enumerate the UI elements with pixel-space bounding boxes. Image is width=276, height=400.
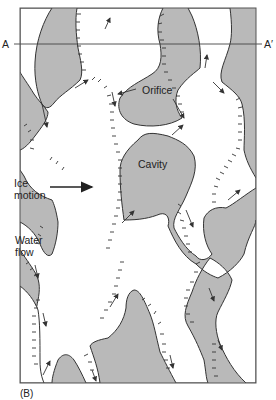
section-label-a: A: [2, 38, 9, 50]
ice-motion-label-line2: motion: [14, 189, 46, 201]
section-label-a-prime: A′: [264, 38, 273, 50]
water-flow-label-line2: flow: [15, 246, 34, 258]
orifice-label: Orifice: [142, 84, 172, 96]
panel-label: (B): [20, 388, 33, 400]
water-flow-label-line1: Water: [15, 234, 43, 246]
cavity-label: Cavity: [138, 158, 167, 170]
ice-motion-label-line1: Ice: [14, 177, 28, 189]
